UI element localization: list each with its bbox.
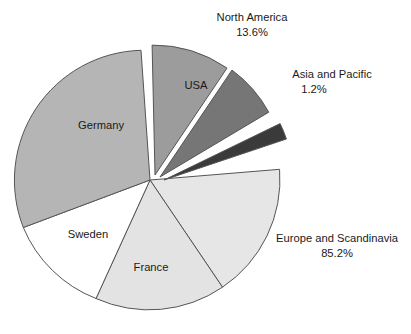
slice-label-france: France xyxy=(134,261,169,273)
annotation-asia-pacific-name: Asia and Pacific xyxy=(292,68,372,80)
pie-chart-canvas: USA Germany Sweden France North America … xyxy=(0,0,411,334)
annotation-europe-scandinavia-percent: 85.2% xyxy=(321,247,353,259)
annotation-north-america-name: North America xyxy=(217,11,289,23)
slice-label-sweden: Sweden xyxy=(68,228,108,240)
annotation-europe-scandinavia-name: Europe and Scandinavia xyxy=(276,232,399,244)
annotation-asia-pacific-percent: 1.2% xyxy=(301,83,327,95)
slice-label-usa: USA xyxy=(184,79,208,91)
annotation-north-america-percent: 13.6% xyxy=(236,26,268,38)
pie-chart: USA Germany Sweden France North America … xyxy=(0,0,411,334)
slice-label-germany: Germany xyxy=(78,119,124,131)
